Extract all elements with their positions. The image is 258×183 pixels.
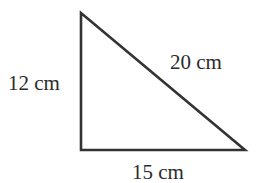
- right-triangle-shape: [81, 13, 245, 150]
- triangle-figure: 12 cm 20 cm 15 cm: [0, 0, 258, 183]
- hypotenuse-label: 20 cm: [170, 50, 222, 74]
- base-side-label: 15 cm: [132, 160, 184, 183]
- vertical-side-label: 12 cm: [8, 71, 60, 95]
- triangle-diagram: 12 cm 20 cm 15 cm: [0, 0, 258, 183]
